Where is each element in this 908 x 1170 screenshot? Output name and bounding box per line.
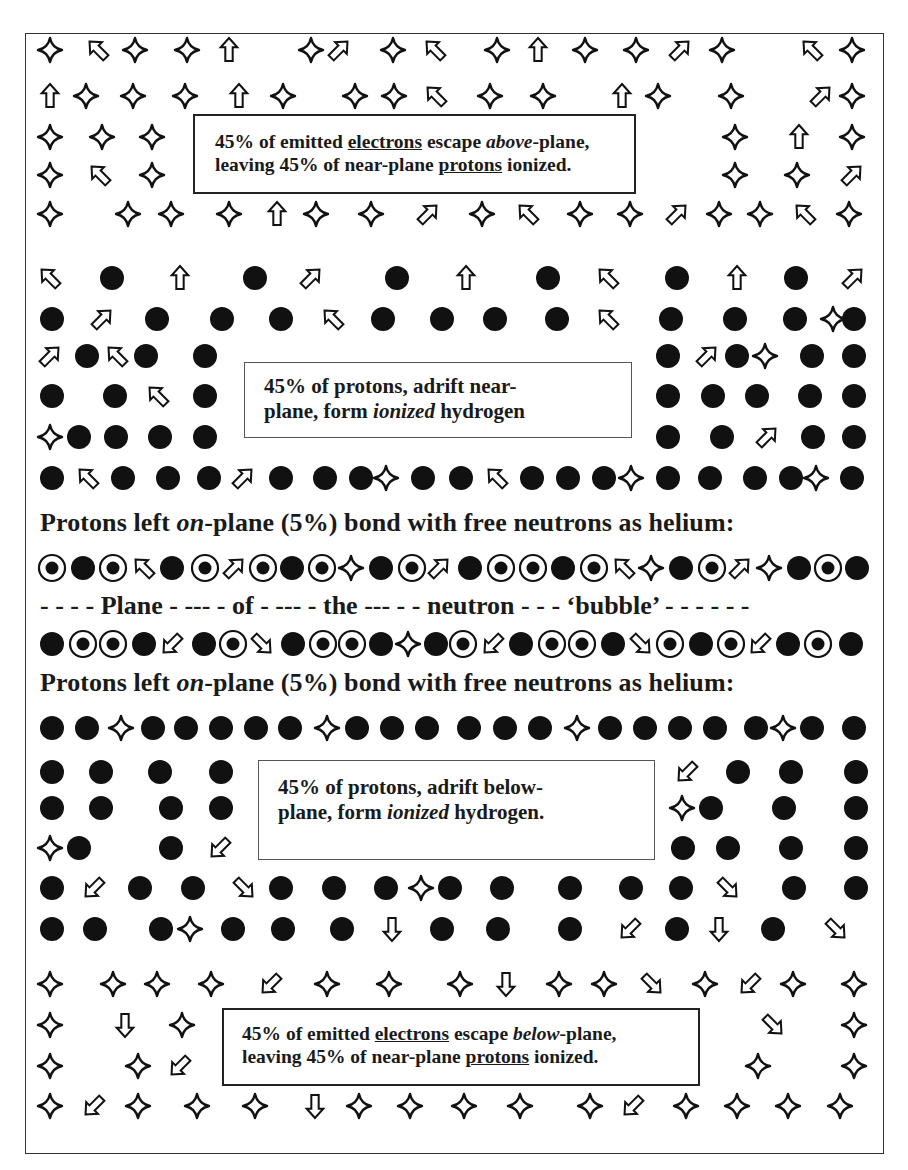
proton-circle-icon [669,876,693,900]
electron-star-icon [347,1094,371,1118]
proton-circle-icon [665,917,689,941]
arrow-ul-icon [610,554,638,582]
arrow-ur-icon [229,464,257,492]
electron-star-icon [821,307,845,331]
electron-star-icon [485,38,509,62]
proton-circle-icon [40,876,64,900]
proton-circle-icon [40,466,64,490]
proton-circle-icon [800,716,824,740]
arrow-ur-icon [425,554,453,582]
proton-circle-icon [380,716,404,740]
arrow-down-icon [384,918,401,941]
proton-circle-icon [551,556,575,580]
proton-circle-icon [659,307,683,331]
arrow-ul-icon [130,554,158,582]
proton-circle-icon [842,716,866,740]
proton-circle-icon [243,266,267,290]
helium-target-icon [450,631,476,657]
electron-star-icon [707,202,731,226]
electron-star-icon [723,125,747,149]
arrow-up-icon [614,84,631,107]
arrow-ur-icon [36,342,64,370]
proton-circle-icon [598,716,622,740]
proton-circle-icon [430,307,454,331]
proton-circle-icon [486,917,510,941]
electron-star-icon [785,163,809,187]
arrow-ul-icon [86,161,114,189]
proton-circle-icon [656,425,680,449]
proton-circle-icon [701,384,725,408]
callout-text: 45% of protons, adrift below-plane, form… [278,775,654,825]
electron-star-icon [452,1094,476,1118]
electron-star-icon [781,972,805,996]
proton-circle-icon [744,716,768,740]
arrow-up-icon [231,84,248,107]
proton-circle-icon [698,466,722,490]
proton-circle-icon [782,876,806,900]
arrow-dr-icon [822,915,850,943]
arrow-ul-icon [594,305,622,333]
proton-circle-icon [536,266,560,290]
arrow-dr-icon [627,630,655,658]
electron-star-icon [746,1054,770,1078]
arrow-ul-icon [36,264,64,292]
arrow-dl-icon [206,834,234,862]
arrow-ur-icon [414,200,442,228]
proton-circle-icon [371,307,395,331]
arrow-ur-icon [839,264,867,292]
arrow-up-icon [269,202,286,225]
proton-circle-icon [787,556,811,580]
proton-circle-icon [723,307,747,331]
arrow-dr-icon [638,970,666,998]
arrow-ur-icon [663,200,691,228]
proton-circle-icon [601,632,625,656]
electron-star-icon [299,38,323,62]
proton-circle-icon [281,632,305,656]
arrow-dl-icon [257,970,285,998]
arrow-ul-icon [798,36,826,64]
electron-star-icon [508,1094,532,1118]
electron-star-icon [116,202,140,226]
proton-circle-icon [844,796,868,820]
electron-star-icon [670,796,694,820]
arrow-ur-icon [297,264,325,292]
electron-star-icon [178,917,202,941]
helium-heading-upper: Protons left on-plane (5%) bond with fre… [40,508,734,538]
arrow-ur-icon [666,36,694,64]
arrow-up-icon [221,38,238,61]
electron-star-icon [624,38,648,62]
proton-circle-icon [103,384,127,408]
helium-target-icon [657,631,683,657]
proton-circle-icon [772,796,796,820]
arrow-ur-icon [88,305,116,333]
helium-target-icon [309,555,335,581]
arrow-up-icon [172,266,189,289]
arrow-dl-icon [619,1092,647,1120]
electron-star-icon [578,1094,602,1118]
electron-star-icon [646,84,670,108]
proton-circle-icon [656,466,680,490]
proton-circle-icon [104,425,128,449]
proton-circle-icon [656,384,680,408]
callout-electrons-above: 45% of emitted electrons escape above-pl… [193,114,636,194]
helium-target-icon [220,631,246,657]
arrow-dr-icon [714,874,742,902]
proton-circle-icon [779,466,803,490]
arrow-dr-icon [248,630,276,658]
electron-star-icon [38,163,62,187]
arrow-down-icon [498,973,515,996]
arrow-dl-icon [166,1052,194,1080]
proton-circle-icon [385,266,409,290]
electron-star-icon [619,466,643,490]
proton-circle-icon [271,917,295,941]
electron-star-icon [121,84,145,108]
proton-circle-icon [40,632,64,656]
arrow-up-icon [530,38,547,61]
helium-target-icon [192,555,218,581]
callout-text: 45% of emitted electrons escape below-pl… [242,1022,698,1069]
arrow-ur-icon [807,82,835,110]
helium-target-icon [805,631,831,657]
proton-circle-icon [160,556,184,580]
electron-star-icon [315,716,339,740]
proton-circle-icon [89,796,113,820]
